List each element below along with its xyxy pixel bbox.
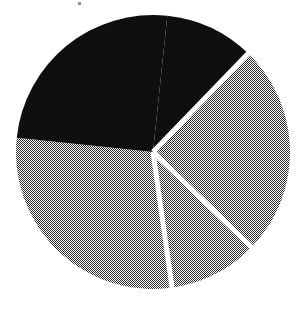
scan-speck-artifact	[78, 2, 81, 5]
pie-chart-canvas	[0, 0, 305, 310]
pie-chart-figure	[0, 0, 305, 310]
pie-slice-2[interactable]	[17, 15, 168, 152]
